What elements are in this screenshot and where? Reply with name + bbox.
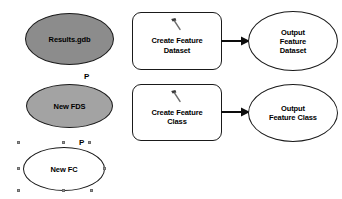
data-element-new-fds[interactable]: New FDS — [26, 84, 113, 128]
data-element-label: New FC — [48, 165, 81, 174]
process-label: Create Feature Dataset — [147, 36, 206, 55]
data-element-label: New FDS — [51, 102, 89, 111]
data-element-label: Results.gdb — [46, 35, 94, 44]
selection-handle-se[interactable] — [90, 189, 93, 192]
hammer-tool-icon — [169, 89, 185, 103]
process-create-feature-dataset[interactable]: Create Feature Dataset — [132, 12, 222, 70]
data-element-new-fc[interactable]: New FC — [23, 147, 105, 191]
selection-handle-w[interactable] — [17, 167, 20, 170]
selection-handle-n[interactable] — [62, 141, 65, 144]
parameter-flag-new-fc: P — [79, 139, 84, 147]
data-element-label: Output Feature Dataset — [277, 28, 309, 55]
selection-handle-nw[interactable] — [17, 141, 20, 144]
process-label: Create Feature Class — [147, 108, 206, 127]
parameter-flag-new-fds: P — [84, 73, 89, 81]
data-element-label: Output Feature Class — [266, 104, 320, 122]
model-canvas[interactable]: Results.gdb New FDS P New FC P Create Fe… — [0, 0, 342, 199]
data-element-results-gdb[interactable]: Results.gdb — [25, 13, 114, 65]
selection-handle-s[interactable] — [62, 189, 65, 192]
process-create-feature-class[interactable]: Create Feature Class — [132, 84, 222, 141]
selection-handle-sw[interactable] — [17, 189, 20, 192]
data-element-output-feature-dataset[interactable]: Output Feature Dataset — [248, 11, 338, 71]
hammer-tool-icon — [169, 17, 185, 31]
selection-handle-ne[interactable] — [88, 141, 91, 144]
data-element-output-feature-class[interactable]: Output Feature Class — [248, 84, 338, 142]
selection-handle-e[interactable] — [103, 167, 106, 170]
